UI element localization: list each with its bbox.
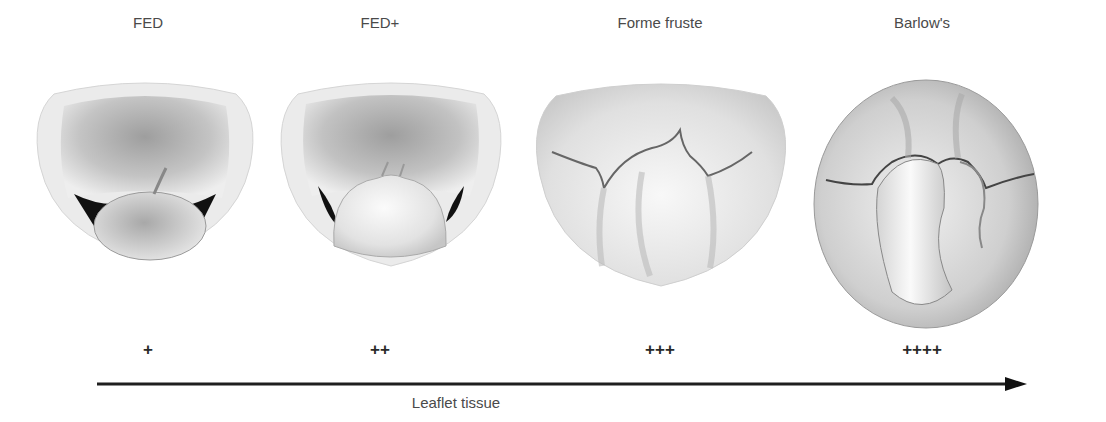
valve-illustration-fed [34, 76, 256, 266]
grade-marker-barlows: ++++ [902, 340, 942, 360]
stage-label-barlows: Barlow's [894, 14, 950, 31]
stage-label-fed: FED [133, 14, 163, 31]
axis-label: Leaflet tissue [412, 394, 500, 411]
stage-label-forme-fruste: Forme fruste [617, 14, 702, 31]
grade-marker-forme-fruste: +++ [645, 340, 675, 360]
stage-label-fed-plus: FED+ [361, 14, 400, 31]
leaflet-tissue-arrow [97, 376, 1027, 392]
grade-marker-fed-plus: ++ [370, 340, 390, 360]
valve-illustration-fed-plus [278, 76, 504, 272]
valve-illustration-forme-fruste [532, 76, 790, 292]
valve-illustration-barlows [812, 78, 1040, 330]
grade-marker-fed: + [143, 340, 153, 360]
arrow-right-icon [97, 376, 1027, 392]
